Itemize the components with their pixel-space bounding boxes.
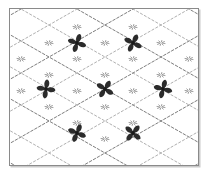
lattice-line-ascending — [0, 178, 210, 183]
panel-frame — [9, 8, 199, 166]
lattice-line-descending — [0, 178, 210, 183]
quilt-pattern-figure — [0, 0, 210, 183]
